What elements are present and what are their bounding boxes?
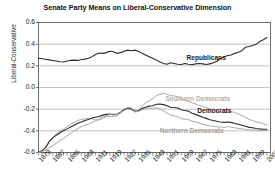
series-label-southern-democrats: Southern Democrats [165,95,230,102]
x-tick-label: 1999 [251,147,266,162]
series-label-republicans: Republicans [187,54,226,61]
x-tick-label: 1991 [237,147,252,162]
x-axis-ticks: 1879188718951903191119191927193519431951… [0,0,275,187]
x-tick-label: 1919 [108,147,123,162]
x-tick-label: 1887 [51,147,66,162]
x-tick-label: 1967 [194,147,209,162]
x-tick-label: 1903 [80,147,95,162]
series-label-northern-democrats: Northern Democrats [160,127,224,134]
x-tick-label: 2007 [265,147,275,162]
x-tick-label: 1911 [94,148,109,163]
x-tick-label: 1943 [151,147,166,162]
x-tick-label: 1895 [66,147,81,162]
x-tick-label: 1975 [208,147,223,162]
chart-container: Senate Party Means on Liberal-Conservati… [0,0,275,187]
x-tick-label: 1959 [180,147,195,162]
x-tick-label: 1927 [123,147,138,162]
x-tick-label: 1935 [137,147,152,162]
series-label-democrats: Democrats [197,107,231,114]
x-tick-label: 1951 [165,147,180,162]
x-tick-label: 1983 [223,147,238,162]
x-tick-label: 1879 [37,147,52,162]
